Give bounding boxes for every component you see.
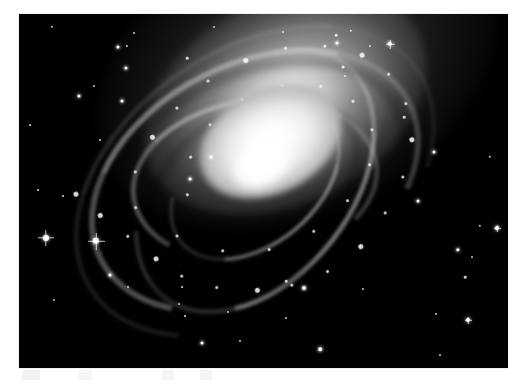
field-star — [495, 226, 499, 230]
field-star — [417, 200, 420, 203]
field-star — [285, 280, 288, 283]
field-star — [439, 354, 441, 356]
field-star — [464, 276, 467, 279]
field-star — [335, 34, 338, 37]
field-star — [186, 57, 189, 60]
field-star — [178, 303, 180, 305]
field-star — [99, 139, 101, 141]
field-star — [62, 195, 64, 197]
field-star — [127, 286, 129, 288]
field-star — [239, 340, 241, 342]
field-star — [181, 286, 183, 288]
field-star — [37, 189, 39, 191]
field-star — [344, 75, 346, 77]
field-star — [78, 95, 81, 98]
field-star — [342, 66, 345, 69]
field-star — [189, 178, 192, 181]
field-star — [184, 315, 186, 317]
field-star — [466, 318, 470, 322]
field-star — [121, 100, 124, 103]
field-star — [433, 151, 436, 154]
field-star — [435, 313, 437, 315]
astronomy-image-plate[interactable] — [19, 14, 508, 368]
field-star — [318, 347, 322, 351]
field-star — [133, 32, 135, 34]
print-artifact-marks — [22, 370, 322, 380]
field-star — [29, 124, 31, 126]
field-star — [246, 158, 250, 162]
field-star — [302, 286, 306, 290]
field-star — [201, 342, 204, 345]
field-star — [362, 288, 364, 290]
field-star — [471, 256, 473, 258]
page-canvas — [0, 0, 525, 386]
field-star — [43, 235, 49, 241]
field-star — [213, 26, 215, 28]
field-star — [109, 274, 112, 277]
field-star — [403, 116, 406, 119]
